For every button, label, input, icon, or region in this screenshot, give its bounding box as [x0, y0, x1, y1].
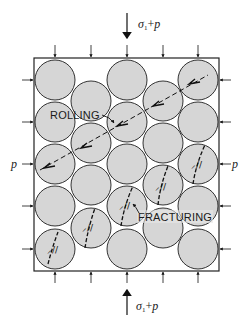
grain: [178, 60, 218, 100]
grain: [143, 81, 183, 121]
fracturing-label: FRACTURING: [138, 211, 212, 223]
grain: [35, 102, 75, 142]
grain: [178, 229, 218, 269]
granular-diagram: ROLLING ⸝// ⸝// ⸝// ⸝// ⸝// FRACTURING σ…: [0, 0, 249, 326]
right-pressure-label: p: [231, 157, 238, 171]
grain: [107, 60, 147, 100]
top-boundary-arrows: [55, 45, 198, 57]
fracture-slip-marks: ⸝//: [191, 160, 203, 170]
grain: [35, 186, 75, 226]
left-pressure-label: p: [10, 157, 17, 171]
grain: [71, 123, 111, 163]
fracture-slip-marks: ⸝//: [82, 223, 94, 233]
bottom-boundary-arrows: [55, 272, 198, 283]
left-boundary-arrows: [22, 80, 33, 249]
grain: [178, 102, 218, 142]
grain: [35, 60, 75, 100]
grain: [71, 165, 111, 205]
grain: [143, 123, 183, 163]
grain: [107, 144, 147, 184]
fracture-slip-marks: ⸝//: [119, 201, 131, 211]
rolling-label: ROLLING: [50, 109, 100, 121]
bottom-load-label: σ1+p: [136, 299, 158, 314]
fracture-slip-marks: ⸝//: [155, 182, 167, 192]
top-load-label: σ1+p: [138, 17, 160, 32]
right-boundary-arrows: [220, 80, 231, 249]
grain: [107, 229, 147, 269]
fracture-slip-marks: ⸝//: [47, 245, 59, 255]
grain: [35, 144, 75, 184]
